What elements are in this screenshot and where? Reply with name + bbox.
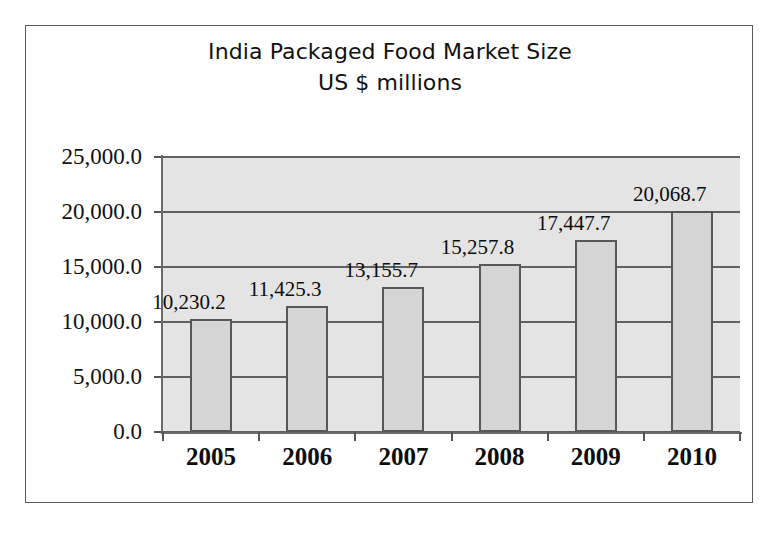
y-axis-tick-label: 5,000.0 [73, 364, 142, 390]
y-axis-line [161, 155, 163, 434]
y-axis-tick-label: 0.0 [113, 419, 142, 445]
bar [286, 306, 328, 432]
x-axis-tick-label: 2007 [378, 443, 428, 471]
chart-title: India Packaged Food Market Size US $ mil… [130, 36, 650, 98]
x-axis-tick [451, 432, 453, 441]
bar [479, 264, 521, 432]
x-axis-tick-label: 2008 [475, 443, 525, 471]
x-axis-tick [643, 432, 645, 441]
bar [671, 211, 713, 432]
bar [575, 240, 617, 432]
bar [382, 287, 424, 432]
y-axis-tick-label: 10,000.0 [62, 309, 143, 335]
x-axis-tick-label: 2006 [282, 443, 332, 471]
chart-title-line-2: US $ millions [130, 67, 650, 98]
gridline [163, 211, 740, 213]
bar [190, 319, 232, 432]
gridline [163, 266, 740, 268]
x-axis-tick-label: 2009 [571, 443, 621, 471]
data-label: 15,257.8 [441, 235, 515, 260]
data-label: 10,230.2 [152, 290, 226, 315]
chart-image: India Packaged Food Market Size US $ mil… [0, 0, 781, 534]
plot-area: 10,230.211,425.313,155.715,257.817,447.7… [163, 157, 740, 432]
data-label: 17,447.7 [537, 211, 611, 236]
y-axis-tick-label: 15,000.0 [62, 254, 143, 280]
x-axis-tick [547, 432, 549, 441]
x-axis-labels: 200520062007200820092010 [163, 443, 740, 483]
chart-title-line-1: India Packaged Food Market Size [130, 36, 650, 67]
y-axis-labels: 0.05,000.010,000.015,000.020,000.025,000… [0, 157, 152, 432]
data-label: 13,155.7 [345, 258, 419, 283]
gridline [163, 321, 740, 323]
y-axis-tick-label: 20,000.0 [62, 199, 143, 225]
x-axis-tick-label: 2005 [186, 443, 236, 471]
x-axis-tick [162, 432, 164, 441]
gridline [163, 376, 740, 378]
data-label: 11,425.3 [249, 277, 322, 302]
x-axis-tick [739, 432, 741, 441]
y-axis-tick-label: 25,000.0 [62, 144, 143, 170]
gridline [163, 156, 740, 158]
x-axis-tick [258, 432, 260, 441]
data-label: 20,068.7 [633, 182, 707, 207]
x-axis-tick-label: 2010 [667, 443, 717, 471]
x-axis-tick [354, 432, 356, 441]
